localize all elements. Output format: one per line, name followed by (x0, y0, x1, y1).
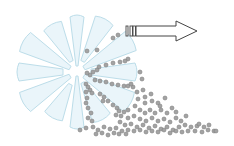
particle (104, 80, 108, 84)
particle (101, 99, 105, 103)
particle (183, 123, 187, 127)
particle (162, 128, 166, 132)
particle (138, 117, 142, 121)
particle (153, 124, 157, 128)
wheel-particle-diagram (0, 0, 234, 146)
particle (132, 129, 136, 133)
particle (200, 130, 204, 134)
particle (179, 119, 183, 123)
particle (143, 95, 147, 99)
particle (106, 133, 110, 137)
particle (116, 83, 120, 87)
particle (98, 92, 102, 96)
particle (117, 109, 121, 113)
particle (118, 120, 122, 124)
particle (133, 104, 137, 108)
particle (90, 91, 94, 95)
particle (85, 71, 89, 75)
arrow-right-icon (136, 21, 197, 41)
particle (126, 108, 130, 112)
particle (91, 125, 95, 129)
particle (114, 126, 118, 130)
particle (143, 111, 147, 115)
particle (84, 90, 88, 94)
particle (108, 127, 112, 131)
particle (110, 82, 114, 86)
particle (86, 106, 90, 110)
particle (163, 96, 167, 100)
particle (96, 128, 100, 132)
particle (129, 122, 133, 126)
particle (197, 122, 201, 126)
particle (114, 113, 118, 117)
particle (138, 108, 142, 112)
particle (149, 92, 153, 96)
particle (102, 95, 106, 99)
particle (193, 129, 197, 133)
particle (85, 96, 89, 100)
particle (90, 119, 94, 123)
arrow-tail-bar (126, 26, 128, 36)
particle (168, 120, 172, 124)
particle (153, 111, 157, 115)
particle (84, 101, 88, 105)
particle (98, 79, 102, 83)
particle (202, 125, 206, 129)
particle (94, 132, 98, 136)
particle (111, 61, 115, 65)
particle (174, 110, 178, 114)
particle (95, 48, 99, 52)
particle (126, 128, 130, 132)
particle (144, 119, 148, 123)
particle (158, 104, 162, 108)
particle (95, 68, 99, 72)
particle (174, 129, 178, 133)
particle (106, 99, 110, 103)
particle (129, 82, 133, 86)
particle (138, 128, 142, 132)
direction-arrow-icon (126, 21, 197, 41)
particle (156, 130, 160, 134)
particle (111, 103, 115, 107)
particle (85, 49, 89, 53)
particle (189, 125, 193, 129)
particle (124, 132, 128, 136)
particle (132, 114, 136, 118)
particle (150, 99, 154, 103)
particle (165, 111, 169, 115)
particle (93, 78, 97, 82)
particle (174, 116, 178, 120)
particle (168, 131, 172, 135)
particle (122, 84, 126, 88)
particle (84, 126, 88, 130)
particle (156, 119, 160, 123)
particle (136, 97, 140, 101)
particle (78, 128, 82, 132)
particle (186, 129, 190, 133)
particle (184, 114, 188, 118)
particle (148, 108, 152, 112)
particle (102, 125, 106, 129)
particle (119, 114, 123, 118)
particle (86, 116, 90, 120)
particle (206, 128, 210, 132)
particle (123, 59, 127, 63)
particle (135, 90, 139, 94)
particle (141, 88, 145, 92)
particle (104, 63, 108, 67)
particle (118, 60, 122, 64)
particle (159, 108, 163, 112)
particle (140, 77, 144, 81)
particle (111, 36, 115, 40)
particle (150, 116, 154, 120)
particle (143, 101, 147, 105)
arrow-tail-bar (133, 26, 136, 36)
particle (150, 129, 154, 133)
particle (122, 110, 126, 114)
particle (170, 106, 174, 110)
diagram-canvas (0, 0, 234, 146)
wheel-blade (17, 63, 63, 81)
particle (123, 123, 127, 127)
particle (162, 117, 166, 121)
particle (100, 131, 104, 135)
